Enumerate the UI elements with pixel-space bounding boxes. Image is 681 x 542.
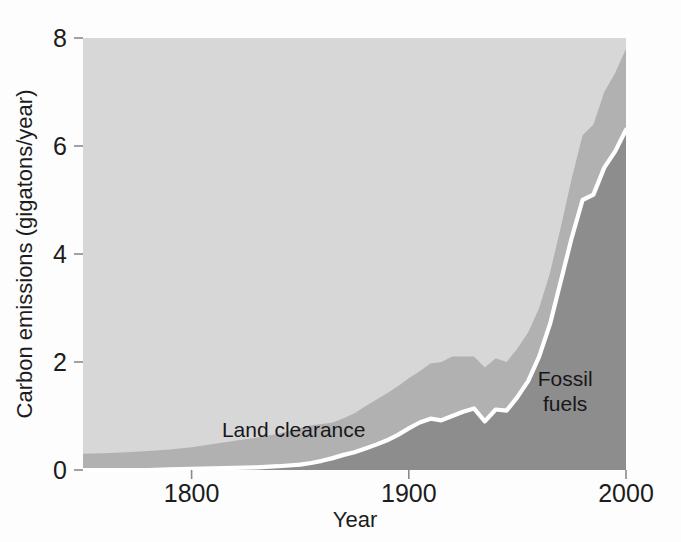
y-tick-label: 2 (53, 348, 67, 376)
series-annotation-label: fuels (543, 392, 587, 415)
x-tick-label: 2000 (598, 479, 654, 507)
y-tick-label: 4 (53, 240, 67, 268)
series-annotation-label: Fossil (538, 367, 593, 390)
carbon-emissions-area-chart: 02468 180019002000 Carbon emissions (gig… (0, 0, 681, 542)
y-tick-label: 0 (53, 456, 67, 484)
y-tick-label: 8 (53, 24, 67, 52)
series-annotation-label: Land clearance (222, 418, 366, 441)
x-axis-title: Year (333, 507, 377, 532)
y-axis-ticks: 02468 (53, 24, 83, 484)
x-tick-label: 1900 (381, 479, 437, 507)
x-tick-label: 1800 (164, 479, 220, 507)
x-axis-ticks: 180019002000 (164, 470, 654, 507)
y-tick-label: 6 (53, 132, 67, 160)
figure-container: 02468 180019002000 Carbon emissions (gig… (0, 0, 681, 542)
y-axis-title: Carbon emissions (gigatons/year) (12, 90, 37, 419)
